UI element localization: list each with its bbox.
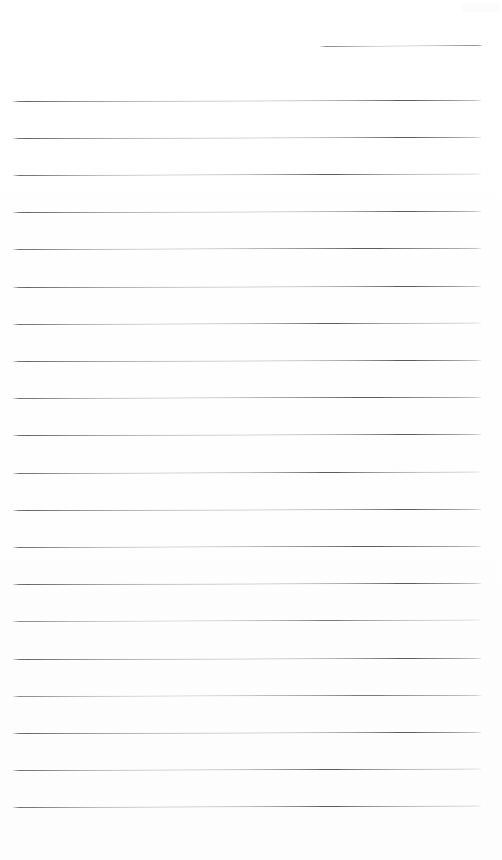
rule-line [13,173,481,175]
rule-line [13,211,481,213]
rule-line [13,769,481,771]
rule-line [13,136,481,138]
scanned-page [0,0,502,860]
rule-line [13,471,481,473]
rule-line [13,546,481,548]
rule-line [13,99,481,101]
rule-line [13,657,481,659]
short-rule-line [320,45,482,47]
rule-line [13,732,481,734]
rule-line [13,583,481,585]
rule-line [13,434,481,436]
rule-line [13,285,481,287]
rule-line [13,806,481,809]
rule-line [13,360,481,362]
rule-line [13,508,481,510]
rule-line [13,397,481,399]
rule-line [13,620,481,622]
rule-line [13,322,481,324]
rule-line [13,248,481,250]
rule-line [13,694,481,696]
scanner-smudge-artifact [462,2,500,12]
